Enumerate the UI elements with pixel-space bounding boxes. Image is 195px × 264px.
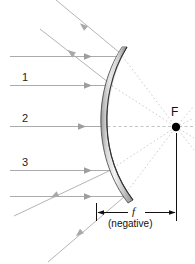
arrow-ray-1	[84, 82, 92, 88]
virtual-ray-lower-1	[110, 127, 176, 170]
reflected-ray-arrowheads	[49, 21, 88, 239]
reflected-ray-bottom	[48, 197, 124, 262]
ray-label-1: 1	[22, 72, 28, 83]
ray-label-3: 3	[22, 157, 28, 168]
optics-diagram: 1 2 3 F f (negative)	[0, 0, 195, 264]
ray-diagram-canvas	[0, 0, 195, 264]
virtual-ray-upper-2	[112, 86, 176, 127]
virtual-ray-lower-2	[123, 127, 176, 197]
arrow-ray-2	[78, 123, 86, 129]
arrow-reflected-bottom	[74, 229, 84, 239]
focal-length-symbol: f	[132, 206, 135, 217]
arrow-ray-bottom	[84, 193, 92, 199]
convex-mirror[interactable]	[101, 47, 133, 203]
arrow-ray-3	[84, 167, 92, 173]
focal-length-note: (negative)	[108, 219, 152, 229]
virtual-ray-beyond-upper	[176, 127, 194, 150]
reflected-ray-top	[56, 0, 120, 53]
arrow-ray-top	[84, 53, 92, 59]
focal-point-label: F	[171, 106, 178, 118]
virtual-ray-upper-1	[120, 53, 176, 127]
ray-label-2: 2	[22, 113, 28, 124]
virtual-ray-group	[110, 53, 194, 197]
focal-point-dot[interactable]	[172, 123, 180, 131]
